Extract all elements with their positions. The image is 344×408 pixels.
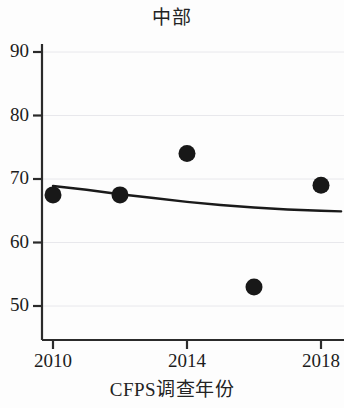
y-tick-label: 70 bbox=[0, 167, 29, 189]
y-tick-marks bbox=[33, 52, 42, 306]
chart-figure: 中部 5060708090 201020142018 CFPS调查年份 bbox=[0, 0, 344, 408]
plot-area bbox=[0, 0, 344, 408]
y-tick-label: 60 bbox=[0, 231, 29, 253]
y-tick-label: 50 bbox=[0, 294, 29, 316]
data-point bbox=[246, 278, 263, 295]
x-axis-title: CFPS调查年份 bbox=[0, 374, 344, 401]
data-point bbox=[179, 145, 196, 162]
y-tick-label: 80 bbox=[0, 104, 29, 126]
fitted-trend-line bbox=[53, 186, 341, 211]
data-point bbox=[313, 177, 330, 194]
y-tick-label: 90 bbox=[0, 40, 29, 62]
axes-group bbox=[42, 44, 344, 340]
data-points-group bbox=[45, 145, 330, 295]
x-tick-label: 2018 bbox=[289, 350, 344, 372]
data-point bbox=[112, 186, 129, 203]
x-tick-label: 2014 bbox=[155, 350, 219, 372]
data-point bbox=[45, 186, 62, 203]
x-tick-label: 2010 bbox=[21, 350, 85, 372]
gridlines-group bbox=[43, 52, 344, 306]
x-tick-marks bbox=[53, 340, 321, 349]
